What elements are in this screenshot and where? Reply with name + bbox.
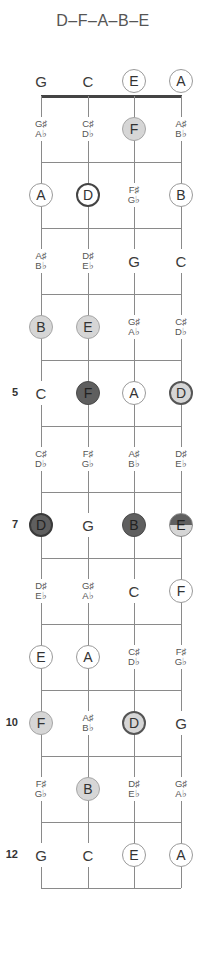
- note-marker-open: E: [122, 843, 146, 867]
- flat-name: A♭: [128, 327, 139, 337]
- note-marker-light: B: [76, 777, 100, 801]
- accidental-note-label: F♯G♭: [79, 447, 97, 471]
- fret-number: 5: [2, 386, 18, 398]
- flat-name: D♭: [128, 657, 140, 667]
- flat-name: B♭: [175, 129, 186, 139]
- accidental-note-label: C♯D♭: [125, 645, 143, 669]
- fret-line-12: [41, 888, 181, 889]
- accidental-note-label: D♯E♭: [125, 777, 143, 801]
- note-marker-light: F: [29, 711, 53, 735]
- note-label: G: [76, 513, 100, 537]
- fret-number: 12: [2, 848, 18, 860]
- accidental-note-label: F♯G♭: [32, 777, 50, 801]
- flat-name: A♭: [175, 789, 186, 799]
- flat-name: E♭: [175, 459, 186, 469]
- fret-line-8: [41, 624, 181, 625]
- flat-name: A♭: [35, 129, 46, 139]
- accidental-note-label: F♯G♭: [125, 183, 143, 207]
- note-marker-light: B: [29, 315, 53, 339]
- accidental-note-label: G♯A♭: [79, 579, 97, 603]
- accidental-note-label: D♯E♭: [32, 579, 50, 603]
- note-label: G: [122, 249, 146, 273]
- note-label: G: [29, 69, 53, 93]
- flat-name: E♭: [35, 591, 46, 601]
- note-marker-root-open: D: [76, 183, 100, 207]
- note-marker-split: E: [169, 513, 193, 537]
- accidental-note-label: C♯D♭: [172, 315, 190, 339]
- note-label: C: [29, 381, 53, 405]
- note-marker-root-light: D: [169, 381, 193, 405]
- accidental-note-label: F♯G♭: [172, 645, 190, 669]
- flat-name: D♭: [82, 129, 94, 139]
- flat-name: A♭: [82, 591, 93, 601]
- flat-name: E♭: [82, 261, 93, 271]
- flat-name: D♭: [175, 327, 187, 337]
- note-marker-open: F: [169, 579, 193, 603]
- note-marker-dark: F: [76, 381, 100, 405]
- accidental-note-label: C♯D♭: [32, 447, 50, 471]
- note-marker-root-light: D: [122, 711, 146, 735]
- accidental-note-label: D♯E♭: [79, 249, 97, 273]
- fret-line-4: [41, 360, 181, 361]
- flat-name: D♭: [35, 459, 47, 469]
- flat-name: B♭: [82, 723, 93, 733]
- accidental-note-label: A♯B♭: [172, 117, 190, 141]
- fret-line-6: [41, 492, 181, 493]
- string-line-a: [181, 96, 182, 888]
- accidental-note-label: A♯B♭: [79, 711, 97, 735]
- note-marker-open: B: [169, 183, 193, 207]
- accidental-note-label: C♯D♭: [79, 117, 97, 141]
- note-marker-open: E: [29, 645, 53, 669]
- fret-line-9: [41, 690, 181, 691]
- accidental-note-label: D♯E♭: [172, 447, 190, 471]
- fret-line-5: [41, 426, 181, 427]
- note-label: G: [29, 843, 53, 867]
- flat-name: G♭: [175, 657, 187, 667]
- note-marker-light: F: [122, 117, 146, 141]
- flat-name: B♭: [35, 261, 46, 271]
- note-label: C: [169, 249, 193, 273]
- note-marker-open: A: [169, 69, 193, 93]
- fret-line-3: [41, 294, 181, 295]
- flat-name: G♭: [128, 195, 140, 205]
- note-marker-open: E: [122, 69, 146, 93]
- note-marker-open: A: [169, 843, 193, 867]
- flat-name: B♭: [128, 459, 139, 469]
- flat-name: G♭: [82, 459, 94, 469]
- fret-line-10: [41, 756, 181, 757]
- fret-line-2: [41, 228, 181, 229]
- fret-line-11: [41, 822, 181, 823]
- note-marker-open: A: [29, 183, 53, 207]
- note-label: C: [76, 843, 100, 867]
- note-marker-light: E: [76, 315, 100, 339]
- note-marker-root-dark: D: [29, 513, 53, 537]
- fretboard-diagram: 571012GCEAG♯A♭C♯D♭FA♯B♭ADF♯G♭BA♯B♭D♯E♭GC…: [0, 0, 206, 960]
- note-marker-open: A: [122, 381, 146, 405]
- accidental-note-label: A♯B♭: [125, 447, 143, 471]
- flat-name: G♭: [35, 789, 47, 799]
- note-marker-open: A: [76, 645, 100, 669]
- note-label: G: [169, 711, 193, 735]
- nut: [41, 95, 182, 98]
- note-label: C: [76, 69, 100, 93]
- accidental-note-label: G♯A♭: [172, 777, 190, 801]
- accidental-note-label: G♯A♭: [125, 315, 143, 339]
- fret-number: 7: [2, 518, 18, 530]
- accidental-note-label: G♯A♭: [32, 117, 50, 141]
- fret-line-7: [41, 558, 181, 559]
- fret-number: 10: [2, 716, 18, 728]
- flat-name: E♭: [128, 789, 139, 799]
- fret-line-1: [41, 162, 181, 163]
- note-marker-dark: B: [122, 513, 146, 537]
- accidental-note-label: A♯B♭: [32, 249, 50, 273]
- note-label: C: [122, 579, 146, 603]
